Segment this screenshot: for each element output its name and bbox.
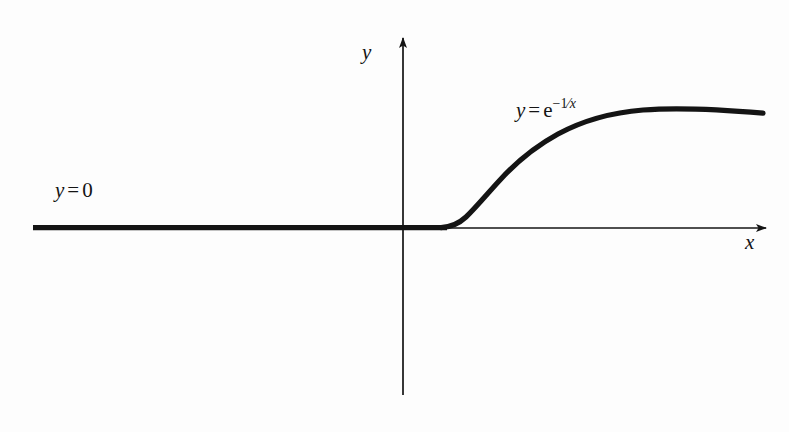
curve-label-variable: y	[516, 98, 525, 122]
curve-exp-branch	[441, 109, 763, 228]
annotation-y-equals-zero: y=0	[55, 180, 93, 201]
figure-canvas: y x y=0 y=e−1⁄x	[0, 0, 789, 432]
plot-area	[0, 0, 789, 432]
exponent-denominator: x	[570, 96, 576, 111]
annotation-curve-equation: y=e−1⁄x	[516, 100, 576, 121]
y-axis-label: y	[362, 42, 371, 63]
zero-label-value: 0	[82, 178, 93, 202]
zero-label-equals: =	[64, 178, 82, 202]
curve-label-equals: =	[525, 98, 543, 122]
curve-label-base: e	[543, 98, 552, 122]
curve-label-exponent: −1⁄x	[553, 96, 576, 111]
x-axis-label: x	[745, 232, 754, 253]
zero-label-variable: y	[55, 178, 64, 202]
